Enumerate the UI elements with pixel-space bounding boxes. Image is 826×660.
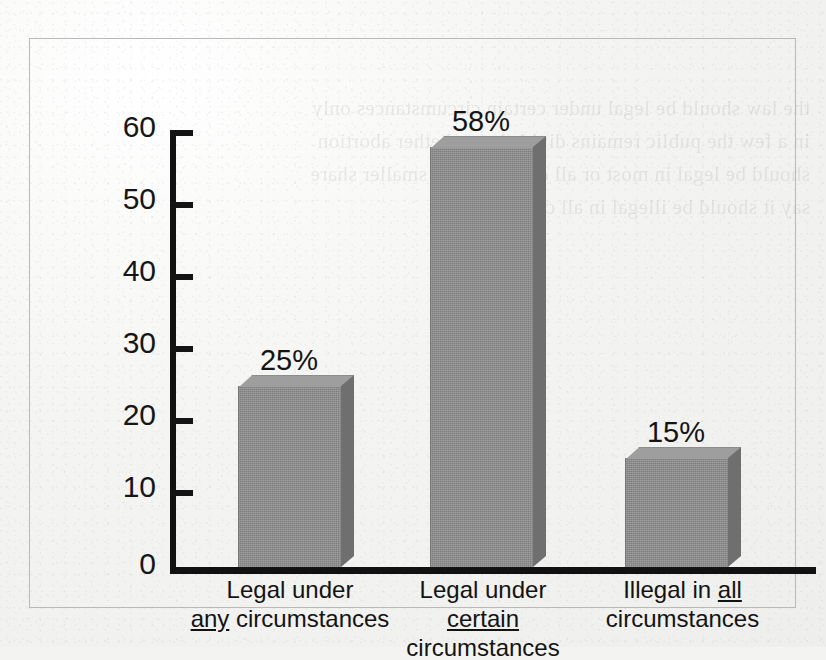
y-tick-50: 50: [170, 202, 193, 208]
bar-value-illegal-all: 15%: [647, 418, 705, 447]
x-axis-line: [170, 567, 816, 574]
bar-side-face-legal-any: [341, 375, 354, 567]
y-tick-label-20: 20: [123, 400, 156, 430]
category-label-legal-certain-line1: Legal under: [368, 575, 598, 604]
bar-group-illegal-all[interactable]: 15%: [625, 458, 727, 567]
bar-top-face-legal-certain: [431, 136, 546, 148]
y-tick-10: 10: [170, 490, 193, 496]
bar-top-face-legal-any: [239, 375, 354, 387]
y-tick-label-30: 30: [123, 328, 156, 358]
bar-value-legal-certain: 58%: [452, 107, 510, 136]
bar-top-face-illegal-all: [626, 447, 741, 459]
y-tick-label-10: 10: [123, 472, 156, 502]
bar-side-face-illegal-all: [728, 447, 741, 567]
category-emphasis-any: any: [191, 605, 230, 632]
bar-legal-certain[interactable]: [430, 147, 533, 567]
bar-illegal-all[interactable]: [625, 458, 728, 567]
bar-legal-any[interactable]: [238, 386, 341, 567]
bar-group-legal-any[interactable]: 25%: [238, 386, 340, 567]
category-label-legal-certain: Legal under certain circumstances: [368, 575, 598, 660]
bar-value-legal-any: 25%: [260, 346, 318, 375]
plot-area: 60 50 40 30 20 10 0 25%: [175, 133, 775, 567]
category-label-legal-certain-line2-rest: circumstances: [406, 634, 559, 660]
category-label-legal-any-line2-rest: circumstances: [229, 605, 389, 632]
category-label-illegal-all: Illegal in all circumstances: [575, 575, 790, 633]
category-label-legal-certain-line2: certain circumstances: [368, 604, 598, 660]
y-tick-label-0: 0: [139, 549, 156, 579]
category-label-illegal-all-line1: Illegal in all: [575, 575, 790, 604]
y-tick-30: 30: [170, 346, 193, 352]
category-label-illegal-all-line2: circumstances: [575, 604, 790, 633]
y-tick-40: 40: [170, 274, 193, 280]
y-tick-label-60: 60: [123, 112, 156, 142]
y-tick-label-50: 50: [123, 184, 156, 214]
category-emphasis-certain: certain: [447, 605, 519, 632]
category-label-illegal-all-line1-prefix: Illegal in: [623, 576, 718, 603]
bar-side-face-legal-certain: [533, 136, 546, 567]
category-emphasis-all: all: [718, 576, 742, 603]
y-tick-label-40: 40: [123, 256, 156, 286]
chart-frame: 60 50 40 30 20 10 0 25%: [29, 38, 796, 608]
category-axis-labels: Legal under any circumstances Legal unde…: [175, 575, 820, 645]
y-tick-20: 20: [170, 418, 193, 424]
bar-group-legal-certain[interactable]: 58%: [430, 147, 532, 567]
y-tick-60: 60: [170, 130, 193, 136]
